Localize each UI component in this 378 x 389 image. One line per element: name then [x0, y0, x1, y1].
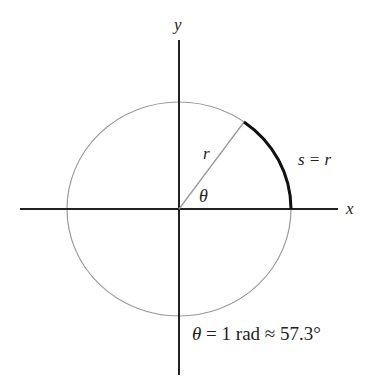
- radius-line: [179, 122, 244, 209]
- y-axis-label: y: [172, 15, 182, 34]
- arc-s: [244, 122, 291, 209]
- theta-label: θ: [199, 186, 208, 206]
- equation: θ = 1 rad ≈ 57.3°: [192, 323, 321, 344]
- radius-label: r: [203, 144, 210, 163]
- equation-rest: = 1 rad ≈ 57.3°: [201, 323, 321, 344]
- x-axis-label: x: [345, 199, 354, 218]
- radian-diagram: y x r θ s = r θ = 1 rad ≈ 57.3°: [0, 0, 378, 389]
- arc-label: s = r: [298, 150, 332, 169]
- equation-theta: θ: [192, 323, 201, 344]
